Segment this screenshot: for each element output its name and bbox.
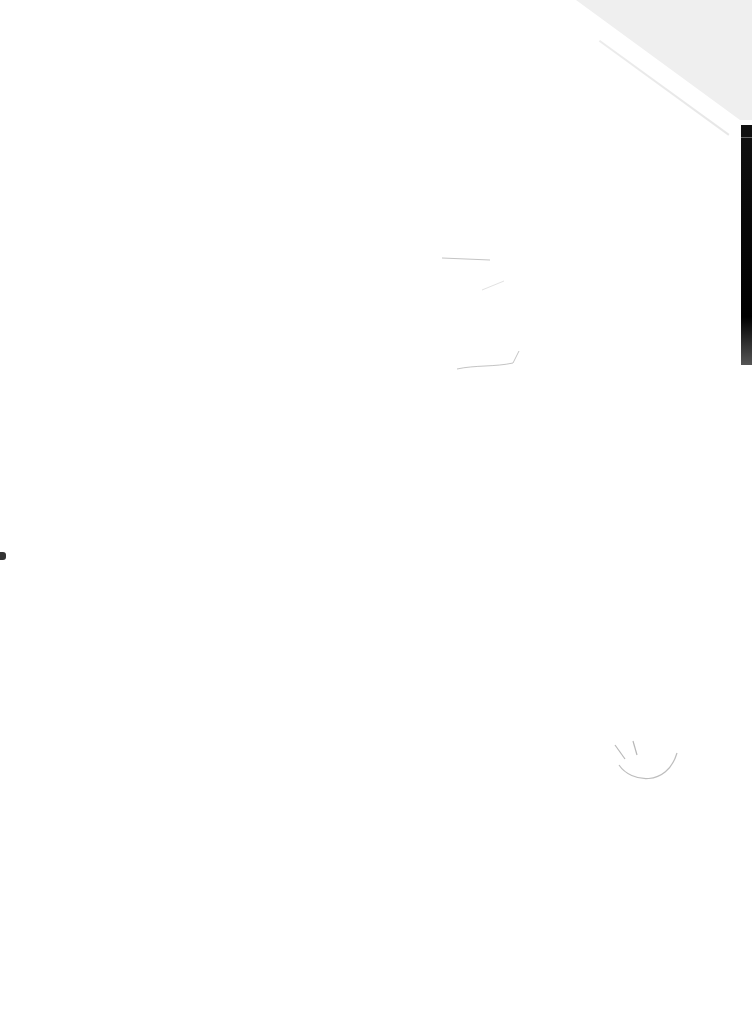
blank-page [0,0,752,1036]
left-edge-mark [0,552,6,560]
pencil-line-mark-lower [455,345,535,375]
pencil-line-mark [440,255,500,265]
pencil-faint-stroke [480,278,510,294]
pencil-smiley-icon [605,725,695,795]
scanner-edge-strip [741,125,752,365]
